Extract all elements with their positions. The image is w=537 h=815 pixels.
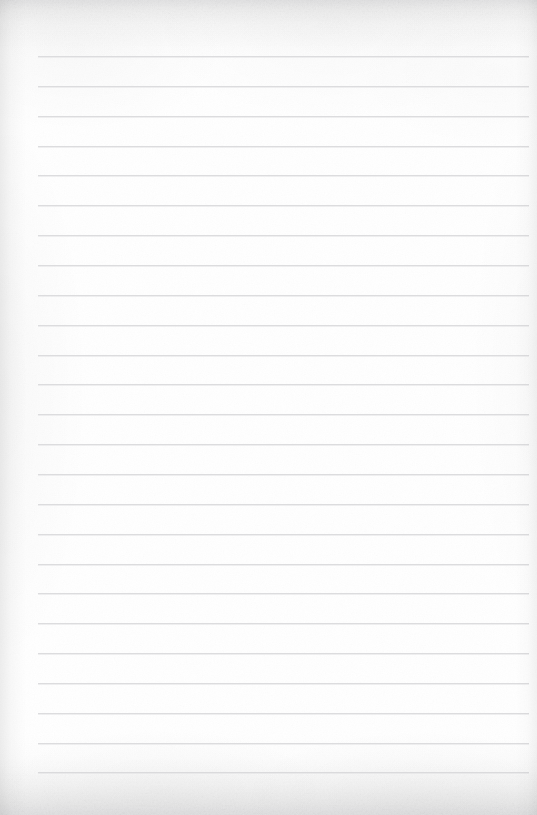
writing-line[interactable] (38, 597, 529, 626)
writing-line[interactable] (38, 149, 529, 178)
writing-line[interactable] (38, 388, 529, 417)
writing-line[interactable] (38, 269, 529, 298)
writing-line[interactable] (38, 299, 529, 328)
writing-line[interactable] (38, 448, 529, 477)
writing-line[interactable] (38, 746, 529, 775)
writing-line[interactable] (38, 329, 529, 358)
writing-line[interactable] (38, 687, 529, 716)
writing-line[interactable] (38, 179, 529, 208)
writing-line[interactable] (38, 508, 529, 537)
writing-line[interactable] (38, 30, 529, 59)
writing-line[interactable] (38, 567, 529, 596)
writing-line[interactable] (38, 717, 529, 746)
writing-line[interactable] (38, 627, 529, 656)
writing-line[interactable] (38, 538, 529, 567)
writing-line[interactable] (38, 418, 529, 447)
writing-line[interactable] (38, 209, 529, 238)
writing-line[interactable] (38, 90, 529, 119)
writing-line[interactable] (38, 239, 529, 268)
writing-line[interactable] (38, 657, 529, 686)
notebook-page (0, 0, 537, 815)
writing-line[interactable] (38, 120, 529, 149)
writing-line[interactable] (38, 60, 529, 89)
writing-line[interactable] (38, 478, 529, 507)
writing-line[interactable] (38, 358, 529, 387)
